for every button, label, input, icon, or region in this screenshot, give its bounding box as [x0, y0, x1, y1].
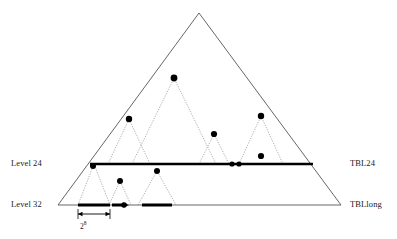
span-dimension-arrow: [78, 209, 110, 219]
label-span-2-pow-8: 28: [80, 220, 87, 231]
node-dot: [229, 161, 234, 166]
span-exponent: 8: [84, 220, 87, 226]
sub-triangle-lower: [78, 164, 110, 205]
lower-sub-triangles: [78, 164, 176, 205]
node-dot: [121, 202, 127, 208]
node-dot: [236, 161, 241, 166]
label-level-32: Level 32: [11, 199, 42, 209]
label-tbl24: TBL24: [350, 158, 375, 168]
node-dot: [211, 131, 217, 137]
triangle-hierarchy-diagram: Level 24 Level 32 TBL24 TBLlong 28: [0, 0, 397, 239]
main-triangle-outline: [58, 13, 341, 205]
node-dots-group: [90, 75, 264, 208]
main-triangle: [58, 13, 341, 205]
node-dot: [258, 113, 264, 119]
label-level-24: Level 24: [11, 158, 42, 168]
dimension-arrowhead-left: [78, 212, 83, 216]
node-dot: [154, 168, 160, 174]
node-dot: [126, 116, 132, 122]
diagram-canvas: [0, 0, 397, 239]
node-dot: [258, 153, 264, 159]
dimension-arrowhead-right: [106, 212, 111, 216]
sub-triangle-upper: [108, 119, 150, 164]
node-dot: [90, 163, 96, 169]
node-dot: [171, 75, 178, 82]
node-dot: [117, 178, 123, 184]
sub-triangle-upper: [132, 78, 216, 164]
sub-triangle-lower: [138, 171, 176, 205]
sub-triangle-lower: [109, 181, 131, 205]
label-tbllong: TBLlong: [350, 199, 382, 209]
